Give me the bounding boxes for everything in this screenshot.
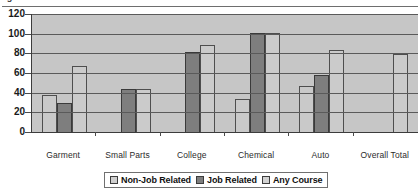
clipped-caption-text: ig [4, 0, 12, 2]
legend-label: Any Course [273, 175, 323, 185]
horizontal-rule [2, 6, 418, 7]
gridline [32, 112, 418, 113]
bar [72, 66, 87, 132]
y-axis-tick-label: 20 [14, 107, 25, 117]
gridline [32, 93, 418, 94]
bar [250, 33, 265, 132]
x-axis-tick-label: Overall Total [353, 150, 417, 160]
y-axis-tick-label: 100 [8, 29, 25, 39]
legend-label: Job Related [207, 175, 257, 185]
gridline [32, 53, 418, 54]
x-axis-tick-label: Auto [288, 150, 352, 160]
x-axis-tick-mark [353, 132, 354, 136]
legend-item[interactable]: Non-Job Related [110, 175, 191, 185]
bar [265, 33, 280, 132]
gridline [32, 14, 418, 15]
x-axis-labels: GarmentSmall PartsCollegeChemicalAutoOve… [31, 150, 417, 160]
x-axis-tick-mark [224, 132, 225, 136]
bar [200, 45, 215, 132]
legend-item[interactable]: Any Course [262, 175, 323, 185]
chart-legend: Non-Job RelatedJob RelatedAny Course [104, 172, 328, 188]
y-axis-tick-label: 40 [14, 88, 25, 98]
y-axis-tick-label: 60 [14, 68, 25, 78]
x-axis-tick-label: Small Parts [95, 150, 159, 160]
x-axis-tick-mark [95, 132, 96, 136]
plot-area-wrapper: 120100806040200 [0, 14, 420, 146]
legend-item[interactable]: Job Related [196, 175, 257, 185]
x-axis-tick-mark [288, 132, 289, 136]
bar [57, 103, 72, 133]
x-axis-tick-label: Chemical [224, 150, 288, 160]
bar [136, 89, 151, 132]
legend-label: Non-Job Related [121, 175, 191, 185]
y-axis-tick-label: 80 [14, 48, 25, 58]
bar [121, 89, 136, 132]
gridline [32, 34, 418, 35]
x-axis-tick-label: Garment [31, 150, 95, 160]
light-gray-swatch-icon [262, 176, 270, 184]
x-axis-tick-label: College [160, 150, 224, 160]
y-axis: 120100806040200 [0, 14, 31, 146]
x-axis-tick-mark [160, 132, 161, 136]
light-gray-swatch-icon [110, 176, 118, 184]
y-axis-tick-label: 120 [8, 9, 25, 19]
chart-figure: ig 120100806040200 GarmentSmall PartsCol… [0, 0, 420, 191]
bar [329, 50, 344, 132]
bar [235, 99, 250, 132]
plot-area [31, 14, 418, 133]
dark-gray-swatch-icon [196, 176, 204, 184]
bar [314, 75, 329, 132]
gridline [32, 73, 418, 74]
